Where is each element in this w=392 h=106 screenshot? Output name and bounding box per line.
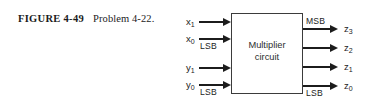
output-label-z2-sub: 2 [349,47,353,54]
output-wire-z0 [303,85,331,87]
input-wire-y1 [199,67,224,69]
input-label-x1: x1 [186,16,195,27]
block-label-line-1: Multiplier [232,40,302,52]
multiplier-circuit-block-label: Multiplier circuit [232,40,302,63]
output-arrowhead-z1 [330,63,338,71]
output-label-z1: z1 [344,61,353,72]
input-wire-y0 [199,84,224,86]
input-note-x0-lsb: LSB [200,41,217,51]
output-label-z3: z3 [344,23,353,34]
input-arrowhead-y0 [223,81,231,89]
input-wire-x1 [199,21,224,23]
figure-caption-label: FIGURE 4-49 [18,13,84,24]
figure-caption: FIGURE 4-49Problem 4-22. [18,13,154,24]
figure-diagram: FIGURE 4-49Problem 4-22. Multiplier circ… [0,0,392,106]
output-label-z3-sub: 3 [349,28,353,35]
input-label-y1: y1 [186,62,195,73]
output-label-z2: z2 [344,42,353,53]
input-label-x0: x0 [186,33,195,44]
input-arrowhead-x1 [223,18,231,26]
output-arrowhead-z0 [330,82,338,90]
output-wire-z3 [303,28,331,30]
input-note-y0-lsb: LSB [200,87,217,97]
input-label-y0-sub: 0 [191,84,195,91]
figure-caption-text: Problem 4-22. [93,13,154,24]
output-wire-z2 [303,47,331,49]
input-arrowhead-y1 [223,64,231,72]
input-label-x0-sub: 0 [191,38,195,45]
input-label-x1-sub: 1 [191,21,195,28]
output-note-z0-lsb: LSB [306,88,323,98]
input-label-y1-sub: 1 [191,67,195,74]
block-label-line-2: circuit [232,52,302,64]
output-note-z3-msb: MSB [306,16,325,26]
input-arrowhead-x0 [223,35,231,43]
input-wire-x0 [199,38,224,40]
output-arrowhead-z3 [330,25,338,33]
input-label-y0: y0 [186,79,195,90]
output-label-z1-sub: 1 [349,66,353,73]
output-arrowhead-z2 [330,44,338,52]
output-wire-z1 [303,66,331,68]
output-label-z0: z0 [344,80,353,91]
output-label-z0-sub: 0 [349,85,353,92]
multiplier-circuit-block: Multiplier circuit [231,13,303,94]
